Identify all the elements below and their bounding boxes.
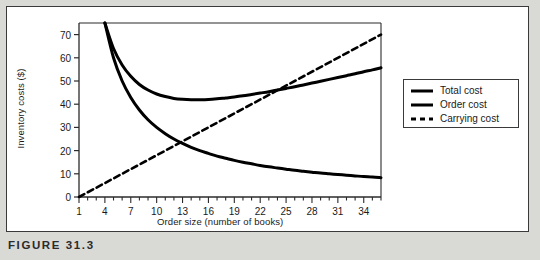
y-tick-label: 60: [35, 52, 71, 63]
x-axis-ticks: [79, 197, 381, 203]
y-tick-label: 10: [35, 168, 71, 179]
y-axis-ticks: [74, 35, 79, 197]
series-line-order-cost: [105, 23, 381, 178]
x-tick-label: 28: [306, 206, 317, 217]
y-tick-label: 50: [35, 76, 71, 87]
chart-area: 010203040506070 147101316192225283134 In…: [7, 7, 530, 233]
axes: [79, 23, 381, 197]
legend-item-order-cost: Order cost: [411, 98, 518, 112]
chart-legend: Total cost Order cost Carrying cost: [403, 79, 519, 128]
figure-container: 010203040506070 147101316192225283134 In…: [0, 0, 540, 260]
figure-caption: FIGURE 31.3: [8, 239, 95, 260]
x-tick-label: 4: [102, 206, 108, 217]
y-tick-label: 70: [35, 29, 71, 40]
y-tick-label: 30: [35, 122, 71, 133]
y-axis-title: Inventory costs ($): [15, 49, 26, 169]
y-tick-label: 20: [35, 145, 71, 156]
x-tick-label: 7: [128, 206, 134, 217]
legend-swatch-dashed-icon: [411, 114, 433, 124]
legend-label-carrying-cost: Carrying cost: [440, 113, 499, 125]
series-line-carrying-cost: [79, 35, 381, 197]
x-tick-label: 1: [76, 206, 82, 217]
x-axis-title: Order size (number of books): [157, 216, 283, 227]
x-tick-label: 34: [358, 206, 369, 217]
chart-panel: 010203040506070 147101316192225283134 In…: [6, 6, 529, 232]
y-tick-label: 40: [35, 99, 71, 110]
x-tick-label: 31: [332, 206, 343, 217]
y-tick-label: 0: [35, 192, 71, 203]
legend-swatch-solid-icon: [411, 100, 433, 110]
legend-swatch-solid-icon: [411, 86, 433, 96]
series-line-total-cost: [105, 23, 381, 100]
legend-label-order-cost: Order cost: [440, 99, 487, 111]
legend-label-total-cost: Total cost: [440, 85, 482, 97]
legend-item-total-cost: Total cost: [411, 84, 518, 98]
legend-item-carrying-cost: Carrying cost: [411, 112, 518, 126]
data-series-group: [79, 23, 381, 197]
